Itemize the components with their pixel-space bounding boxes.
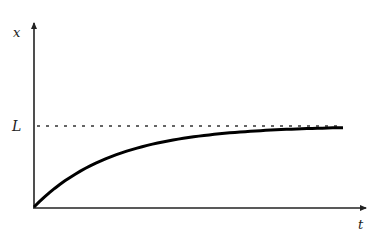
x-axis-label: t: [358, 217, 364, 232]
y-axis-label: x: [13, 25, 21, 40]
asymptote-label: L: [11, 118, 21, 134]
chart: x L t: [0, 0, 380, 240]
curve-x-of-t: [34, 128, 343, 207]
